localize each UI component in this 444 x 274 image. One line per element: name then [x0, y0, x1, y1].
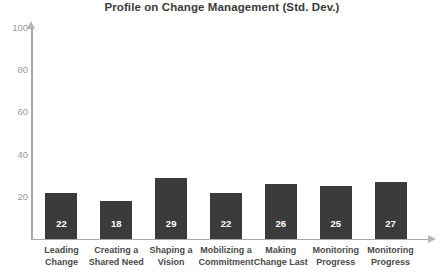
bar-value-label: 29 [155, 218, 187, 229]
bar-group: 27 [375, 28, 407, 239]
bar[interactable]: 22 [210, 193, 242, 239]
y-axis-tick-label: 20 [2, 192, 28, 202]
x-axis-category-label: Shaping a Vision [141, 245, 202, 268]
bar-value-label: 25 [320, 218, 352, 229]
bar[interactable]: 18 [100, 201, 132, 239]
bar-chart: Profile on Change Management (Std. Dev.)… [0, 0, 444, 274]
x-axis-category-label: Making Change Last [250, 245, 311, 268]
chart-title: Profile on Change Management (Std. Dev.) [0, 1, 444, 13]
plot-area: 22182922262527 [32, 28, 429, 239]
bar[interactable]: 25 [320, 186, 352, 239]
x-axis-arrow-icon [428, 235, 436, 243]
bar[interactable]: 29 [155, 178, 187, 239]
y-axis-tick-label: 40 [2, 150, 28, 160]
bar-value-label: 22 [210, 218, 242, 229]
bar-group: 22 [210, 28, 242, 239]
x-axis-category-label: Mobilizing a Commitment [196, 245, 257, 268]
x-axis-category-label: Monitoring Progress [305, 245, 366, 268]
bar[interactable]: 26 [265, 184, 297, 239]
bar-value-label: 18 [100, 218, 132, 229]
bar-group: 29 [155, 28, 187, 239]
bar-group: 26 [265, 28, 297, 239]
y-axis-tick-label: 100 [2, 23, 28, 33]
bar[interactable]: 22 [45, 193, 77, 239]
bar-value-label: 22 [45, 218, 77, 229]
y-axis-tick-label: 80 [2, 65, 28, 75]
x-axis-category-label: Creating a Shared Need [86, 245, 147, 268]
x-axis-category-label: Monitoring Progress [360, 245, 421, 268]
x-axis-category-labels: Leading ChangeCreating a Shared NeedShap… [32, 245, 429, 274]
bar[interactable]: 27 [375, 182, 407, 239]
bar-group: 25 [320, 28, 352, 239]
bar-value-label: 26 [265, 218, 297, 229]
bar-group: 22 [45, 28, 77, 239]
y-axis-tick-label: 60 [2, 107, 28, 117]
bar-value-label: 27 [375, 218, 407, 229]
bar-group: 18 [100, 28, 132, 239]
y-axis-tick-labels: 10080604020 [0, 0, 28, 274]
x-axis-category-label: Leading Change [31, 245, 92, 268]
